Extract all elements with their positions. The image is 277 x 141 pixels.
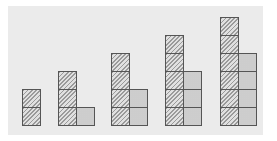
hatched-square xyxy=(220,89,239,108)
hatched-square xyxy=(58,89,77,108)
dotted-square xyxy=(238,53,257,72)
hatched-square xyxy=(58,71,77,90)
dotted-square xyxy=(76,107,95,126)
hatched-square xyxy=(22,107,41,126)
hatched-square xyxy=(111,89,130,108)
dotted-square xyxy=(238,71,257,90)
dotted-square xyxy=(238,107,257,126)
hatched-square xyxy=(165,35,184,54)
hatched-square xyxy=(111,71,130,90)
hatched-square xyxy=(220,17,239,36)
hatched-square xyxy=(111,53,130,72)
hatched-square xyxy=(165,107,184,126)
hatched-square xyxy=(220,53,239,72)
hatched-square xyxy=(22,89,41,108)
hatched-square xyxy=(220,35,239,54)
dotted-square xyxy=(129,107,148,126)
hatched-square xyxy=(58,107,77,126)
dotted-square xyxy=(183,71,202,90)
hatched-square xyxy=(111,107,130,126)
dotted-square xyxy=(238,89,257,108)
hatched-square xyxy=(165,71,184,90)
hatched-square xyxy=(220,107,239,126)
dotted-square xyxy=(129,89,148,108)
hatched-square xyxy=(165,89,184,108)
dotted-square xyxy=(183,107,202,126)
dotted-square xyxy=(183,89,202,108)
hatched-square xyxy=(165,53,184,72)
hatched-square xyxy=(220,71,239,90)
